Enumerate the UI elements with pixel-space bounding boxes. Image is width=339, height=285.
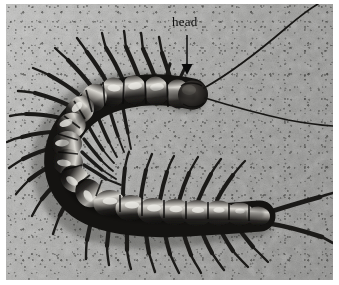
head-label: head [172, 15, 197, 28]
figure-container: head [0, 0, 339, 285]
head-arrow [182, 35, 193, 75]
annotation-layer [6, 4, 333, 280]
centipede-photograph: head [6, 4, 333, 280]
